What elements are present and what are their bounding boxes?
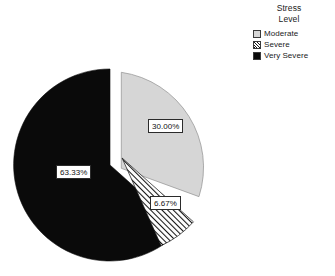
legend: Stress Level Moderate Severe Very Severe [251,3,329,61]
pie-chart-figure: 30.00% 63.33% 6.67% Stress Level Moderat… [0,0,335,276]
data-label-moderate: 30.00% [148,119,183,133]
swatch-severe-icon [253,41,261,49]
legend-label-moderate: Moderate [264,29,298,39]
data-label-very-severe: 63.33% [56,165,91,179]
data-label-severe: 6.67% [150,196,181,210]
swatch-moderate-icon [253,30,261,38]
legend-item-very-severe[interactable]: Very Severe [253,51,308,61]
legend-label-severe: Severe [264,40,290,50]
legend-item-moderate[interactable]: Moderate [253,29,298,39]
legend-label-very-severe: Very Severe [264,51,308,61]
swatch-very-severe-icon [253,52,261,60]
legend-title: Stress Level [251,3,329,24]
legend-item-severe[interactable]: Severe [253,40,290,50]
legend-items: Moderate Severe Very Severe [251,29,329,61]
